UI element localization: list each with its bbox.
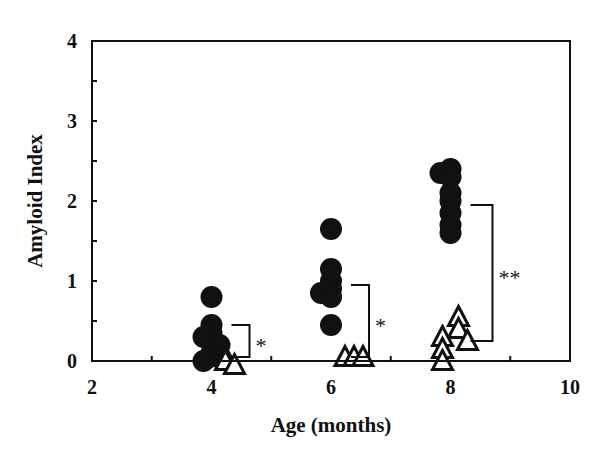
- y-tick-label: 1: [67, 270, 77, 292]
- significance-stars: *: [375, 313, 386, 338]
- data-point-circle: [320, 314, 342, 336]
- amyloid-index-chart: **** 01234 246810 Age (months) Amyloid I…: [0, 0, 600, 455]
- y-tick-label: 2: [67, 190, 77, 212]
- y-tick-label: 4: [67, 30, 77, 52]
- significance-stars: **: [499, 265, 521, 290]
- x-tick-label: 8: [446, 376, 456, 398]
- x-axis-title: Age (months): [271, 413, 392, 437]
- data-point-circle: [440, 222, 462, 244]
- x-tick-label: 10: [560, 376, 580, 398]
- significance-brackets: ****: [232, 205, 521, 358]
- y-tick-label: 0: [67, 350, 77, 372]
- y-axis: 01234: [67, 30, 97, 372]
- data-markers: [193, 158, 478, 374]
- x-axis: 246810: [87, 356, 580, 398]
- data-point-circle: [320, 286, 342, 308]
- y-axis-title: Amyloid Index: [23, 134, 47, 268]
- y-tick-label: 3: [67, 110, 77, 132]
- x-tick-label: 4: [207, 376, 217, 398]
- x-tick-label: 6: [326, 376, 336, 398]
- x-tick-label: 2: [87, 376, 97, 398]
- significance-bracket: [471, 205, 493, 341]
- data-point-circle: [201, 286, 223, 308]
- data-point-circle: [320, 218, 342, 240]
- significance-stars: *: [256, 333, 267, 358]
- plot-frame: [92, 41, 570, 361]
